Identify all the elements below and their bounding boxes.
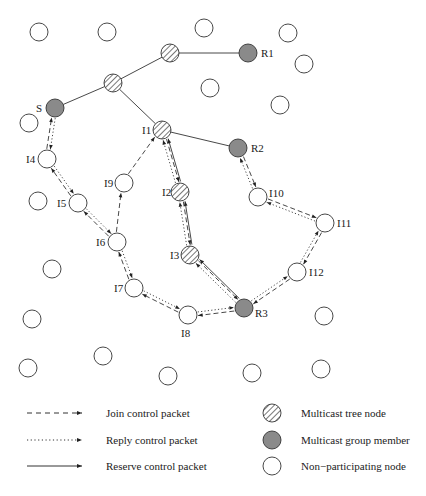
non-participating-node: [98, 23, 116, 41]
empty-circle-icon: [263, 457, 281, 475]
tree-link: [119, 89, 155, 124]
network-diagram: SR1R2R3I1I2I3I4I5I6I7I8I9I10I11I12 Join …: [0, 0, 426, 496]
reply-packet-arrow: [86, 209, 111, 234]
join-packet-arrow: [268, 199, 316, 218]
reply-packet-arrow: [180, 202, 187, 245]
non-participating-node-i9: [115, 174, 133, 192]
multicast-tree-node: [161, 44, 179, 62]
non-participating-node: [271, 96, 289, 114]
reply-packet-arrow: [54, 166, 73, 194]
node-label: I5: [57, 197, 67, 209]
join-packet-arrow: [142, 294, 178, 312]
filled-circle-icon: [263, 431, 281, 449]
node-label: I7: [114, 282, 124, 294]
non-participating-node: [19, 359, 37, 377]
reserve-packet-arrow: [168, 139, 180, 182]
node-label: R3: [255, 307, 268, 319]
join-packet-arrow: [183, 202, 190, 245]
legend-plain-label: Non−participating node: [301, 460, 406, 472]
node-label: I12: [309, 266, 324, 278]
non-participating-node-i5: [69, 194, 87, 212]
reserve-packet-arrow: [200, 260, 240, 299]
legend-reserve-line: Reserve control packet: [27, 460, 207, 472]
node-label: I6: [96, 236, 106, 248]
legend-reply-label: Reply control packet: [106, 434, 198, 446]
non-participating-node: [29, 192, 47, 210]
non-participating-node-i11: [316, 214, 334, 232]
reply-packet-arrow: [144, 291, 180, 309]
multicast-tree-node-i3: [181, 246, 199, 264]
reply-packet-arrow: [122, 251, 132, 278]
node-label: R2: [251, 142, 264, 154]
join-packet-arrow: [47, 118, 52, 149]
node-label: I1: [142, 124, 151, 136]
node-label: I4: [26, 153, 36, 165]
reply-packet-arrow: [163, 140, 175, 183]
legend-tree-label: Multicast tree node: [301, 407, 386, 419]
hatched-circle-icon: [263, 404, 281, 422]
non-participating-node: [94, 347, 112, 365]
legend: Join control packet Reply control packet…: [27, 404, 410, 475]
node-label: R1: [261, 47, 274, 59]
join-packet-arrow: [128, 137, 154, 174]
join-packet-arrow: [84, 211, 109, 236]
node-label: I3: [170, 249, 180, 261]
reply-packet-arrow: [198, 307, 234, 312]
reply-packet-arrow: [196, 263, 236, 302]
reserve-packet-arrow: [185, 201, 192, 244]
node-label: I9: [104, 177, 114, 189]
non-participating-node: [243, 364, 261, 382]
non-participating-node-i8: [179, 306, 197, 324]
non-participating-node-i6: [108, 233, 126, 251]
non-participating-node-i10: [249, 188, 267, 206]
reply-packet-arrow: [300, 231, 318, 263]
non-participating-node: [43, 260, 61, 278]
multicast-group-member-node-r3: [235, 299, 253, 317]
non-participating-node: [279, 24, 297, 42]
legend-reserve-label: Reserve control packet: [106, 460, 207, 472]
multicast-group-member-node-r1: [239, 44, 257, 62]
legend-join-label: Join control packet: [106, 407, 190, 419]
non-participating-node: [312, 360, 330, 378]
multicast-tree-node-i2: [171, 183, 189, 201]
join-packet-arrow: [167, 139, 179, 182]
non-participating-node: [315, 307, 333, 325]
node-label: I2: [162, 186, 171, 198]
non-participating-node-i12: [288, 263, 306, 281]
node-label: I11: [337, 217, 351, 229]
non-participating-node: [295, 55, 313, 73]
tree-link: [171, 132, 229, 146]
non-participating-node: [201, 79, 219, 97]
legend-member-label: Multicast group member: [301, 434, 410, 446]
non-participating-node: [30, 23, 48, 41]
join-packet-arrow: [116, 193, 121, 232]
join-packet-arrow: [51, 168, 70, 196]
node-label: I8: [181, 327, 191, 339]
reply-packet-arrow: [267, 202, 315, 221]
non-participating-node-i4: [38, 150, 56, 168]
join-packet-arrow: [253, 279, 289, 304]
non-participating-node: [20, 114, 38, 132]
multicast-tree-node-i1: [153, 121, 171, 139]
reply-packet-arrow: [251, 276, 287, 301]
multicast-tree-node: [104, 74, 122, 92]
node-label: I10: [269, 187, 284, 199]
legend-member-node: Multicast group member: [263, 431, 410, 449]
non-participating-node: [23, 310, 41, 328]
non-participating-node-i7: [125, 279, 143, 297]
tree-link: [121, 57, 162, 79]
tree-link: [63, 87, 104, 105]
legend-tree-node: Multicast tree node: [263, 404, 386, 422]
multicast-group-member-node-s: [46, 99, 64, 117]
non-participating-node: [159, 367, 177, 385]
node-label: S: [36, 102, 42, 114]
join-packet-arrow: [119, 252, 129, 279]
join-packet-arrow: [198, 261, 238, 300]
legend-join-line: Join control packet: [27, 407, 190, 419]
multicast-group-member-node-r2: [229, 139, 247, 157]
join-packet-arrow: [198, 311, 234, 316]
legend-plain-node: Non−participating node: [263, 457, 406, 475]
non-participating-node: [195, 19, 213, 37]
join-packet-arrow: [304, 233, 322, 265]
legend-reply-line: Reply control packet: [27, 434, 198, 446]
